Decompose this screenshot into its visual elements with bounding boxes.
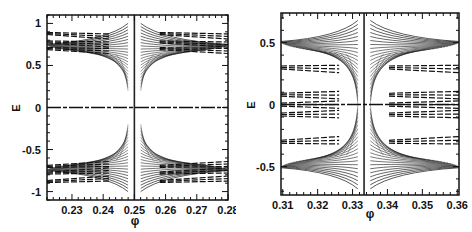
x-tick-label: 0.24: [92, 204, 114, 216]
x-tick-label: 0.31: [272, 199, 293, 211]
right-chart: 0.310.320.330.340.350.36-0.500.5 E φ: [236, 0, 472, 232]
x-tick-label: 0.26: [155, 204, 176, 216]
y-tick-label: 1: [35, 17, 41, 29]
left-x-axis-label: φ: [131, 214, 140, 228]
x-tick-label: 0.27: [186, 204, 207, 216]
x-tick-label: 0.34: [377, 199, 399, 211]
left-y-axis-label: E: [10, 104, 22, 111]
y-tick-label: -1: [31, 186, 41, 198]
y-tick-label: 0.5: [260, 37, 275, 49]
x-tick-label: 0.28: [217, 204, 236, 216]
right-x-axis-label: φ: [366, 207, 375, 221]
y-tick-label: 0.5: [26, 59, 41, 71]
x-tick-label: 0.35: [412, 199, 433, 211]
x-tick-label: 0.33: [342, 199, 363, 211]
right-y-axis-label: E: [245, 101, 257, 108]
left-chart: 0.230.240.250.260.270.28-1-0.500.51 E φ: [0, 0, 236, 232]
y-tick-label: -0.5: [256, 161, 275, 173]
y-tick-label: -0.5: [22, 144, 41, 156]
y-tick-label: 0: [35, 102, 41, 114]
left-plot-area: 0.230.240.250.260.270.28-1-0.500.51: [22, 15, 236, 216]
x-tick-label: 0.23: [61, 204, 82, 216]
right-plot-area: 0.310.320.330.340.350.36-0.500.5: [256, 13, 468, 211]
y-tick-label: 0: [269, 99, 275, 111]
x-tick-label: 0.36: [447, 199, 468, 211]
spectrum-curves: [47, 15, 228, 200]
x-tick-label: 0.32: [307, 199, 328, 211]
spectrum-curves: [281, 13, 459, 195]
